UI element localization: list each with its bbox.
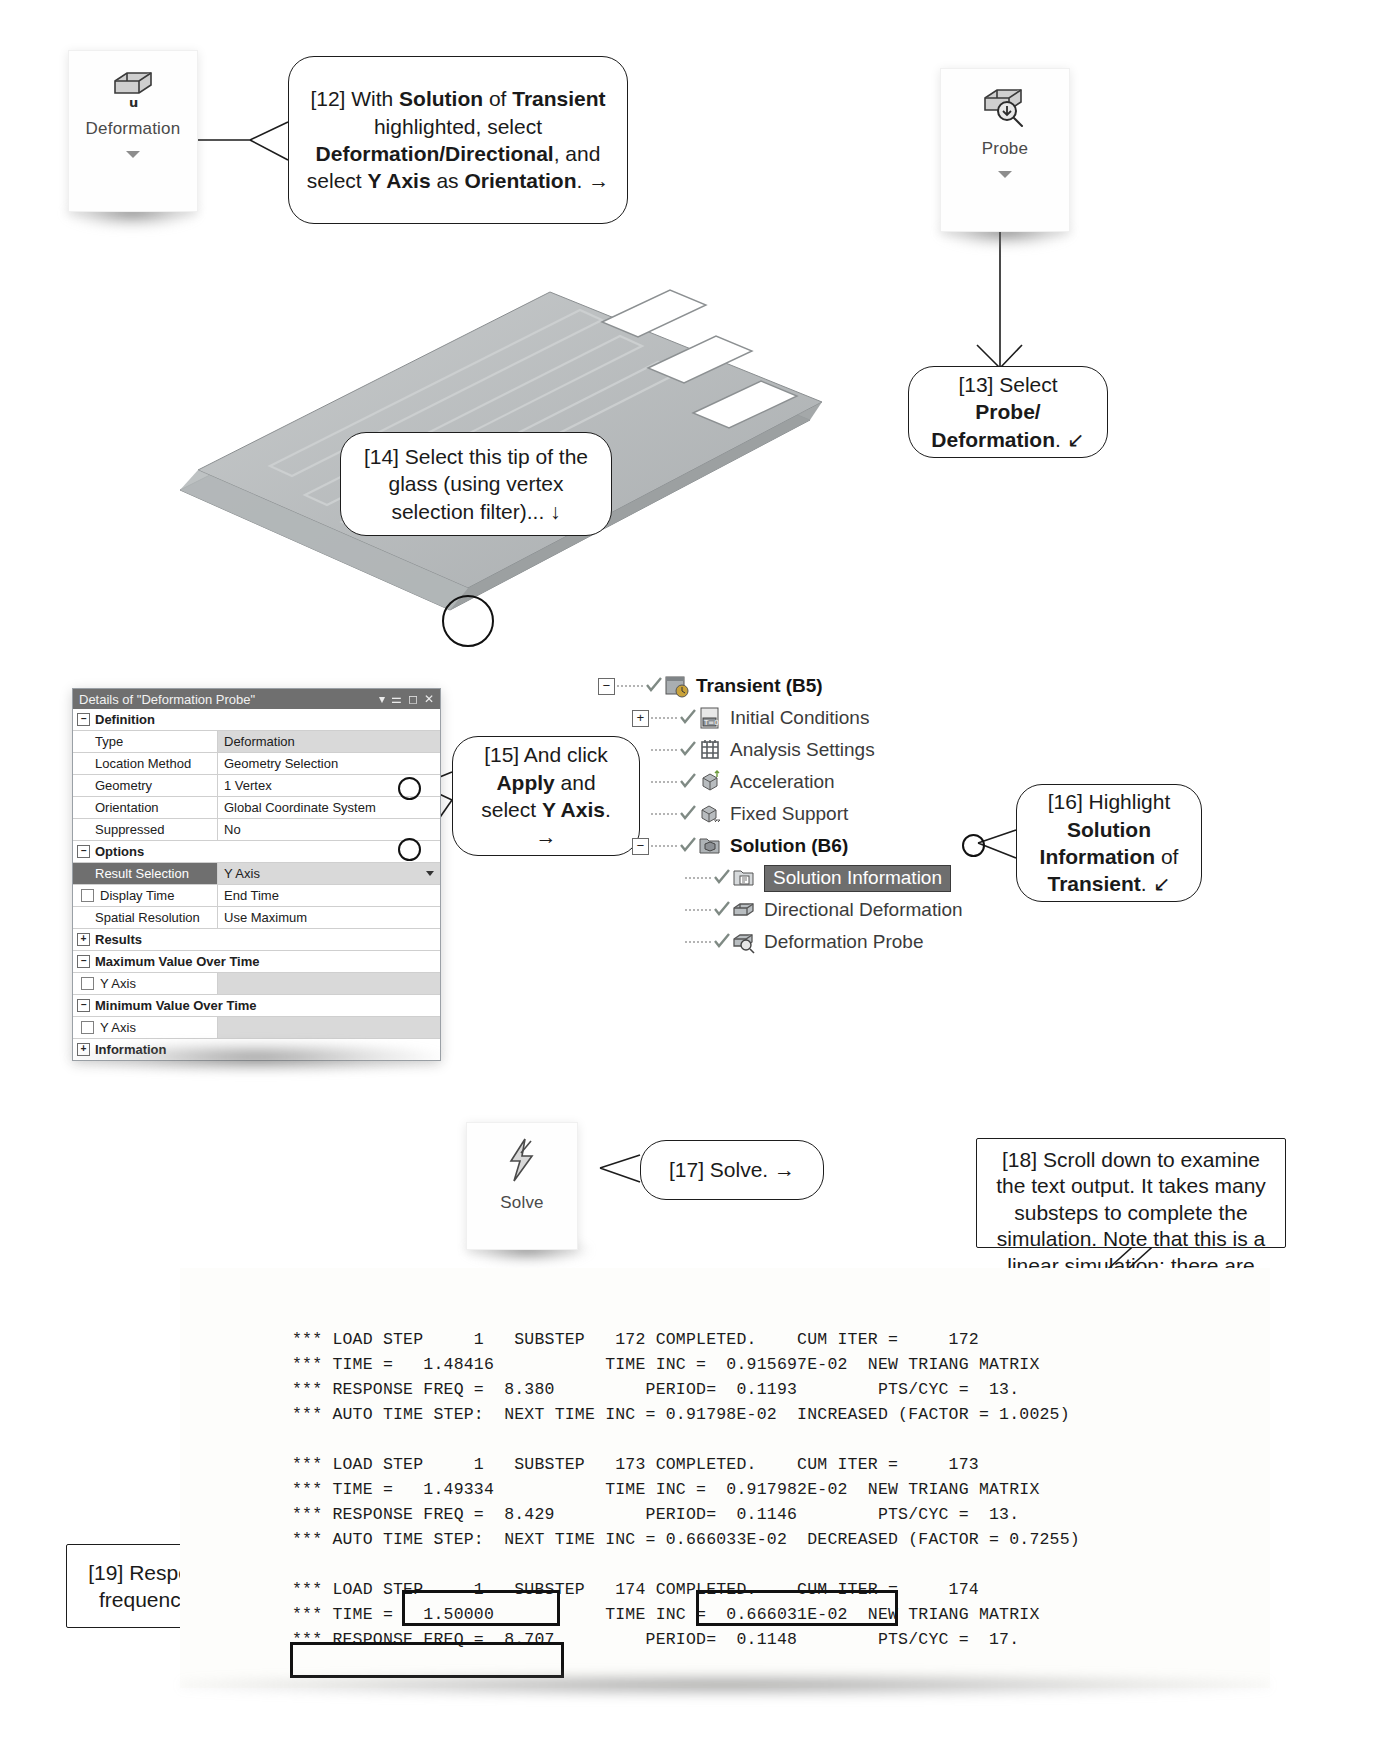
- probe-ribbon-button[interactable]: Probe: [940, 68, 1070, 232]
- details-property-grid[interactable]: −DefinitionTypeDeformationLocation Metho…: [73, 709, 440, 1060]
- svg-text:u: u: [129, 95, 138, 109]
- collapse-icon[interactable]: −: [77, 845, 90, 858]
- expand-icon[interactable]: +: [77, 933, 90, 946]
- tree-item-label: Solution Information: [764, 865, 951, 892]
- property-checkbox[interactable]: [81, 977, 94, 990]
- property-row[interactable]: Geometry1 Vertex: [73, 775, 440, 797]
- property-key: Orientation: [73, 797, 218, 818]
- property-value[interactable]: Deformation: [218, 731, 440, 752]
- property-key: Type: [73, 731, 218, 752]
- details-panel-title: Details of "Deformation Probe": [79, 692, 373, 707]
- callout-13: [13] Select Probe/ Deformation. ↙: [908, 366, 1108, 458]
- tree-item-analysis-settings[interactable]: Analysis Settings: [598, 734, 963, 766]
- chevron-down-icon[interactable]: ▾: [379, 693, 385, 705]
- deformation-button-label: Deformation: [86, 119, 181, 139]
- tree-item-label: Solution (B6): [730, 835, 848, 857]
- tree-connector: [685, 909, 711, 911]
- tree-item-fixed-support[interactable]: Fixed Support: [598, 798, 963, 830]
- green-check-icon: [645, 675, 663, 698]
- green-check-icon: [679, 803, 697, 826]
- property-group-label: Maximum Value Over Time: [95, 954, 260, 969]
- property-row[interactable]: Location MethodGeometry Selection: [73, 753, 440, 775]
- property-group-row[interactable]: −Minimum Value Over Time: [73, 995, 440, 1017]
- property-key: Display Time: [73, 885, 218, 906]
- analysis-settings-icon: [697, 737, 723, 763]
- property-group-row[interactable]: −Options: [73, 841, 440, 863]
- tree-item-label: Initial Conditions: [730, 707, 869, 729]
- expand-icon[interactable]: +: [632, 710, 649, 727]
- collapse-icon[interactable]: −: [77, 713, 90, 726]
- green-check-icon: [713, 931, 731, 954]
- tree-item-label: Analysis Settings: [730, 739, 875, 761]
- solve-ribbon-button[interactable]: Solve: [466, 1122, 578, 1250]
- project-outline-tree[interactable]: −Transient (B5)+T=0Initial ConditionsAna…: [598, 670, 963, 958]
- callout-16: [16] Highlight Solution Information of T…: [1016, 784, 1202, 902]
- maximize-icon[interactable]: ◻: [408, 693, 418, 705]
- chevron-down-icon[interactable]: [998, 171, 1012, 178]
- chevron-down-icon[interactable]: [426, 871, 434, 876]
- property-group-row[interactable]: +Results: [73, 929, 440, 951]
- callout-14: [14] Select this tip of the glass (using…: [340, 432, 612, 536]
- green-check-icon: [679, 739, 697, 762]
- property-group-row[interactable]: −Definition: [73, 709, 440, 731]
- tree-connector: [651, 813, 677, 815]
- property-row[interactable]: Result SelectionY Axis: [73, 863, 440, 885]
- callout-17-text: [17] Solve. →: [669, 1156, 795, 1183]
- svg-text:T=0: T=0: [703, 719, 719, 727]
- initial-conditions-icon: T=0: [697, 705, 723, 731]
- tree-connector: [617, 685, 643, 687]
- result-selection-row-anchor-circle: [398, 838, 421, 861]
- property-key: Spatial Resolution: [73, 907, 218, 928]
- property-checkbox[interactable]: [81, 1021, 94, 1034]
- chevron-down-icon[interactable]: [126, 151, 140, 158]
- selected-vertex-marker[interactable]: [442, 595, 494, 647]
- property-value[interactable]: Use Maximum: [218, 907, 440, 928]
- fixed-support-icon: [697, 801, 723, 827]
- property-row[interactable]: TypeDeformation: [73, 731, 440, 753]
- property-value[interactable]: Y Axis: [218, 863, 440, 884]
- deformation-ribbon-button[interactable]: u Deformation: [68, 50, 198, 212]
- details-panel-titlebar[interactable]: Details of "Deformation Probe" ▾ ⚌ ◻ ✕: [73, 689, 440, 709]
- tree-item-solution-b6[interactable]: −Solution (B6): [598, 830, 963, 862]
- property-key: Geometry: [73, 775, 218, 796]
- property-row[interactable]: Display TimeEnd Time: [73, 885, 440, 907]
- green-check-icon: [679, 707, 697, 730]
- close-icon[interactable]: ✕: [424, 693, 434, 705]
- property-value[interactable]: Global Coordinate System: [218, 797, 440, 818]
- geometry-row-anchor-circle: [398, 777, 421, 800]
- property-checkbox[interactable]: [81, 889, 94, 902]
- property-key: Result Selection: [73, 863, 218, 884]
- tree-item-acceleration[interactable]: Acceleration: [598, 766, 963, 798]
- collapse-icon[interactable]: −: [77, 999, 90, 1012]
- deformation-cube-u-icon: u: [109, 65, 157, 113]
- property-row[interactable]: Y Axis: [73, 1017, 440, 1039]
- collapse-icon[interactable]: −: [632, 838, 649, 855]
- tree-connector: [651, 749, 677, 751]
- solution-information-anchor-circle: [962, 834, 985, 857]
- collapse-icon[interactable]: −: [77, 955, 90, 968]
- details-of-deformation-probe-panel[interactable]: Details of "Deformation Probe" ▾ ⚌ ◻ ✕ −…: [72, 688, 441, 1061]
- pin-icon[interactable]: ⚌: [391, 693, 402, 705]
- tree-item-initial-conditions[interactable]: +T=0Initial Conditions: [598, 702, 963, 734]
- property-value[interactable]: [218, 1017, 440, 1038]
- tree-item-directional-deformation[interactable]: Directional Deformation: [598, 894, 963, 926]
- property-value[interactable]: [218, 973, 440, 994]
- tree-connector: [651, 717, 677, 719]
- transient-clock-icon: [663, 673, 689, 699]
- solution-information-text-output[interactable]: *** LOAD STEP 1 SUBSTEP 172 COMPLETED. C…: [180, 1268, 1270, 1688]
- tree-item-deformation-probe[interactable]: Deformation Probe: [598, 926, 963, 958]
- property-value[interactable]: Geometry Selection: [218, 753, 440, 774]
- property-value[interactable]: No: [218, 819, 440, 840]
- property-row[interactable]: Spatial ResolutionUse Maximum: [73, 907, 440, 929]
- property-row[interactable]: Y Axis: [73, 973, 440, 995]
- property-row[interactable]: SuppressedNo: [73, 819, 440, 841]
- probe-cube-magnifier-icon: [980, 83, 1030, 133]
- property-group-row[interactable]: −Maximum Value Over Time: [73, 951, 440, 973]
- tree-item-solution-information[interactable]: Solution Information: [598, 862, 963, 894]
- green-check-icon: [679, 835, 697, 858]
- property-value[interactable]: End Time: [218, 885, 440, 906]
- collapse-icon[interactable]: −: [598, 678, 615, 695]
- tree-item-transient-b5[interactable]: −Transient (B5): [598, 670, 963, 702]
- tree-item-label: Deformation Probe: [764, 931, 923, 953]
- property-row[interactable]: OrientationGlobal Coordinate System: [73, 797, 440, 819]
